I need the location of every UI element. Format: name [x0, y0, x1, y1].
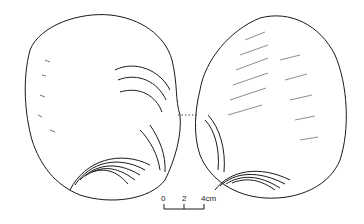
right-view: [195, 16, 346, 198]
scale-tick-4cm: 4cm: [201, 194, 216, 203]
artifact-drawing: [0, 0, 364, 224]
scale-tick-2: 2: [182, 194, 186, 203]
scale-tick-0: 0: [161, 194, 165, 203]
scale-bar: [164, 204, 204, 209]
left-view: [25, 15, 180, 200]
